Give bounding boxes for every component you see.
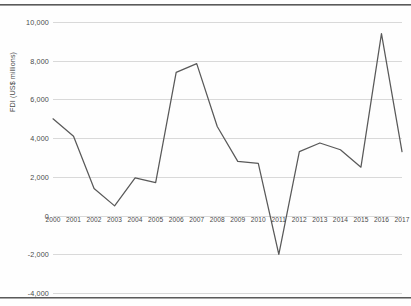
x-axis-tick-label: 2017 <box>394 216 409 223</box>
x-axis-tick-label: 2016 <box>374 216 389 223</box>
gridline <box>53 293 402 294</box>
x-axis-tick-label: 2007 <box>189 216 204 223</box>
y-axis-tick-label: -4,000 <box>28 289 49 298</box>
y-axis-tick-label: -2,000 <box>28 250 49 259</box>
y-axis-tick-labels: 10,0008,0006,0004,0002,0000-2,000-4,000 <box>0 22 49 293</box>
y-axis-tick-label: 10,000 <box>26 18 49 27</box>
x-axis-tick-label: 2011 <box>272 216 287 223</box>
x-axis-tick-label: 2013 <box>312 216 327 223</box>
x-axis-tick-label: 2009 <box>230 216 245 223</box>
x-axis-tick-label: 2005 <box>148 216 163 223</box>
y-axis-tick-label: 6,000 <box>30 95 49 104</box>
y-axis-tick-label: 4,000 <box>30 134 49 143</box>
x-axis-tick-label: 2008 <box>210 216 225 223</box>
y-axis-tick-label: 8,000 <box>30 56 49 65</box>
series-svg <box>53 22 402 293</box>
x-axis-tick-label: 2006 <box>169 216 184 223</box>
x-axis-tick-label: 2015 <box>353 216 368 223</box>
y-axis-tick-label: 2,000 <box>30 172 49 181</box>
fdi-line-chart: FDI (US$ millions) 10,0008,0006,0004,000… <box>0 0 411 306</box>
x-axis-tick-label: 2000 <box>45 216 60 223</box>
x-axis-tick-labels: 2000200120022003200420052006200720082009… <box>53 216 402 228</box>
x-axis-tick-label: 2004 <box>128 216 143 223</box>
x-axis-tick-label: 2010 <box>251 216 266 223</box>
x-axis-tick-label: 2002 <box>87 216 102 223</box>
page-border-top-rule-shadow <box>0 5 411 6</box>
plot-area <box>53 22 402 293</box>
x-axis-tick-label: 2001 <box>66 216 81 223</box>
x-axis-tick-label: 2014 <box>333 216 348 223</box>
x-axis-tick-label: 2003 <box>107 216 122 223</box>
page-border-bottom-rule-shadow <box>0 298 411 299</box>
x-axis-tick-label: 2012 <box>292 216 307 223</box>
